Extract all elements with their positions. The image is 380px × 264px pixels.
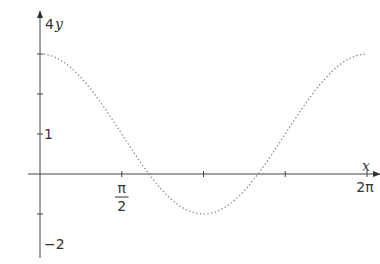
x-axis-arrow-icon: [373, 171, 380, 177]
y-top-label: 4: [45, 16, 54, 32]
y-tick-label-1: 1: [44, 126, 53, 142]
y-tick-label-minus-2: −2: [44, 236, 65, 252]
x-tick-label-pi-denominator: 2: [117, 198, 126, 214]
x-tick-label-pi-numerator: π: [118, 180, 127, 196]
x-tick-label-2pi: 2π: [356, 179, 374, 195]
function-plot: 4 y 1 −2 π 2 x 2π: [0, 0, 380, 264]
y-axis-arrow-icon: [37, 10, 43, 18]
curve-line: [40, 54, 367, 214]
y-axis-label: y: [54, 16, 64, 32]
x-axis-label: x: [362, 158, 370, 174]
